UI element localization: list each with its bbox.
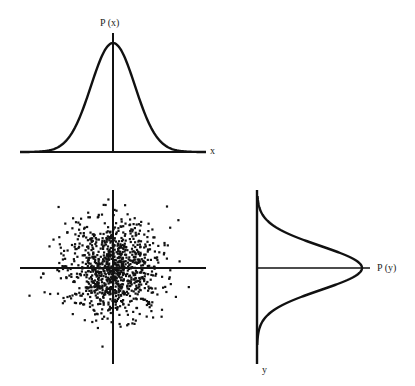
py-label: P (y) [377,262,396,273]
py-plot [257,190,370,364]
scatter-points [28,198,190,347]
px-plot [20,33,206,152]
diagram-canvas [0,0,415,386]
py-curve [257,196,362,345]
y-label: y [262,364,267,375]
px-label: P (x) [100,17,119,28]
x-label: x [210,145,215,156]
scatter-plot [20,190,206,364]
